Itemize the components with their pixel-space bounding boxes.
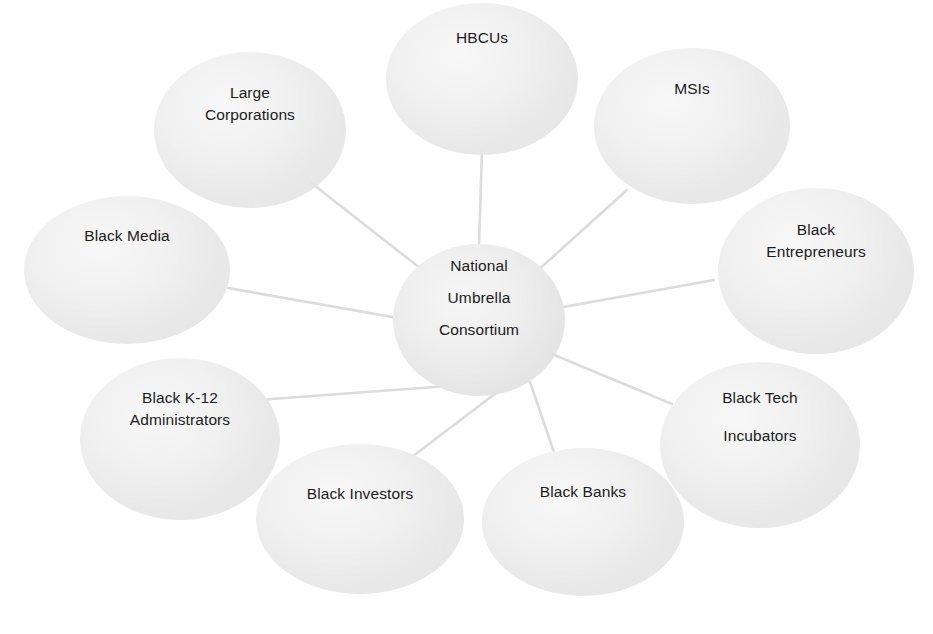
edge-center-to-black-k12: [258, 386, 448, 400]
edge-center-to-msis: [536, 190, 627, 272]
node-label-line: Black K-12: [130, 390, 230, 406]
node-label-line: Incubators: [722, 428, 798, 444]
edge-center-to-hbcus: [479, 150, 482, 246]
node-label-line: Black Media: [84, 228, 170, 244]
node-black-tech-incubators[interactable]: Black Tech Incubators: [660, 362, 860, 528]
node-label: Black Tech Incubators: [722, 390, 798, 466]
node-national-umbrella-consortium[interactable]: National Umbrella Consortium: [393, 244, 565, 396]
ellipse-shape: [24, 196, 230, 344]
node-label: Black Banks: [540, 484, 626, 500]
node-black-k12-administrators[interactable]: Black K-12 Administrators: [80, 358, 280, 520]
node-black-investors[interactable]: Black Investors: [256, 444, 464, 594]
ellipse-shape: [386, 3, 578, 155]
edge-center-to-black-tech: [552, 354, 672, 404]
node-black-entrepreneurs[interactable]: Black Entrepreneurs: [718, 188, 914, 354]
node-label-line: Black Banks: [540, 484, 626, 500]
node-msis[interactable]: MSIs: [594, 48, 790, 204]
node-large-corporations[interactable]: Large Corporations: [154, 52, 346, 208]
node-label-line: Administrators: [130, 412, 230, 428]
node-label-line: Umbrella: [439, 290, 519, 306]
node-label-line: Entrepreneurs: [766, 244, 866, 260]
ellipse-shape: [718, 188, 914, 354]
node-label-line: Large: [205, 85, 295, 101]
node-label-line: Black Tech: [722, 390, 798, 406]
node-label: HBCUs: [456, 30, 508, 46]
node-label-line: National: [439, 258, 519, 274]
node-label-line: HBCUs: [456, 30, 508, 46]
node-label: MSIs: [674, 81, 710, 97]
node-label: Black Entrepreneurs: [766, 222, 866, 266]
ellipse-shape: [80, 358, 280, 520]
edge-center-to-black-entrepreneurs: [558, 280, 714, 308]
node-label: National Umbrella Consortium: [439, 258, 519, 353]
node-label: Black K-12 Administrators: [130, 390, 230, 434]
node-label-line: Black Investors: [307, 486, 414, 502]
node-black-media[interactable]: Black Media: [24, 196, 230, 344]
edge-center-to-large-corporations: [310, 182, 420, 268]
ellipse-shape: [256, 444, 464, 594]
node-hbcus[interactable]: HBCUs: [386, 3, 578, 155]
edge-center-to-black-media: [228, 288, 398, 318]
node-label-line: Consortium: [439, 322, 519, 338]
node-black-banks[interactable]: Black Banks: [482, 448, 684, 596]
node-label-line: MSIs: [674, 81, 710, 97]
node-label-line: Corporations: [205, 107, 295, 123]
diagram-canvas: National Umbrella Consortium HBCUs MSIs …: [0, 0, 933, 634]
node-label: Black Investors: [307, 486, 414, 502]
ellipse-shape: [594, 48, 790, 204]
ellipse-shape: [482, 448, 684, 596]
node-label: Black Media: [84, 228, 170, 244]
node-label-line: Black: [766, 222, 866, 238]
ellipse-shape: [154, 52, 346, 208]
node-label: Large Corporations: [205, 85, 295, 129]
